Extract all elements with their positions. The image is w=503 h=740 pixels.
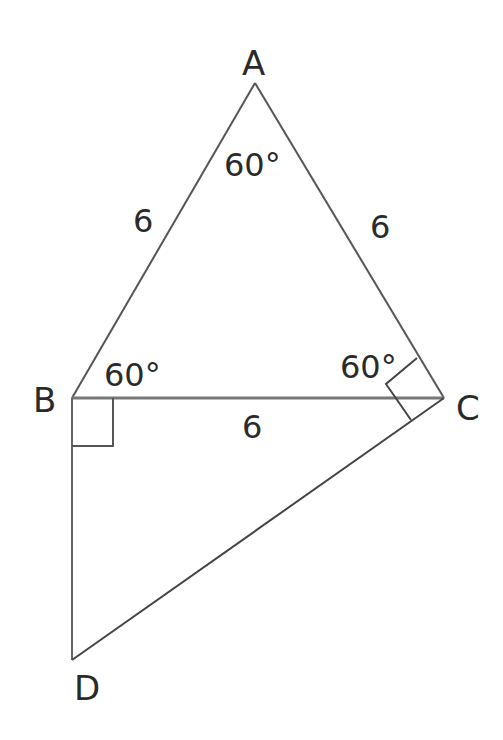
point-label-c: C (456, 388, 480, 428)
side-label-ab: 6 (133, 202, 153, 240)
angle-label-c: 60° (340, 348, 397, 386)
segment-ab (72, 83, 255, 398)
side-label-ac: 6 (370, 208, 390, 246)
angle-label-b: 60° (104, 356, 161, 394)
geometry-diagram: A B C D 60° 60° 60° 6 6 6 (0, 0, 503, 740)
right-angle-mark-b (72, 398, 113, 446)
point-label-b: B (33, 380, 56, 420)
point-label-d: D (74, 668, 100, 708)
angle-label-a: 60° (224, 146, 281, 184)
side-label-bc: 6 (242, 408, 262, 446)
point-label-a: A (242, 43, 265, 83)
